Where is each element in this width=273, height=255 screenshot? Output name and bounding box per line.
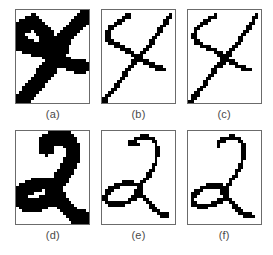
panel-cell-b: (b)	[96, 9, 182, 130]
panel-f	[187, 130, 262, 225]
panel-caption-c: (c)	[217, 108, 230, 120]
panel-cell-f: (f)	[181, 130, 267, 251]
panel-caption-b: (b)	[131, 108, 145, 120]
panel-d	[15, 130, 90, 225]
figure-root: (a)(b)(c)(d)(e)(f)	[0, 0, 273, 255]
panel-c	[187, 9, 262, 104]
panel-caption-f: (f)	[219, 229, 230, 241]
panel-caption-a: (a)	[46, 108, 60, 120]
panel-e	[101, 130, 176, 225]
panel-b	[101, 9, 176, 104]
panel-cell-d: (d)	[10, 130, 96, 251]
panel-caption-d: (d)	[46, 229, 60, 241]
panel-cell-c: (c)	[181, 9, 267, 130]
panel-caption-e: (e)	[131, 229, 145, 241]
panel-cell-a: (a)	[10, 9, 96, 130]
panel-cell-e: (e)	[96, 130, 182, 251]
panel-a	[15, 9, 90, 104]
panel-grid: (a)(b)(c)(d)(e)(f)	[0, 0, 273, 255]
